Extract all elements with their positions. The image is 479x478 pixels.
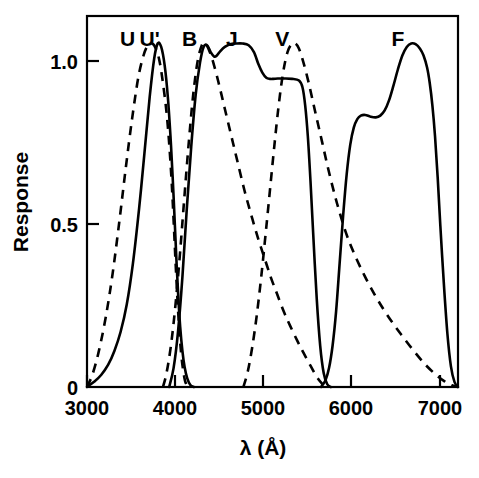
x-tick-label-3000: 3000 — [65, 397, 110, 419]
curve-label-u: U — [120, 27, 135, 50]
y-axis-tick-labels: 1.0 0.5 0 — [50, 51, 78, 399]
y-tick-label-0: 0 — [67, 377, 78, 399]
x-axis-tick-labels: 3000 4000 5000 6000 7000 — [65, 397, 463, 419]
x-tick-label-6000: 6000 — [329, 397, 374, 419]
filter-response-chart: 1.0 0.5 0 3000 4000 5000 6000 7000 λ (Å)… — [0, 0, 479, 478]
x-axis-title: λ (Å) — [240, 436, 287, 459]
curve-label-b: B — [182, 27, 197, 50]
response-curves — [87, 43, 458, 387]
y-tick-label-1: 1.0 — [50, 51, 78, 73]
curve-label-u-prime: U' — [140, 27, 160, 50]
chart-canvas: 1.0 0.5 0 3000 4000 5000 6000 7000 λ (Å)… — [0, 0, 479, 478]
y-tick-label-0_5: 0.5 — [50, 214, 78, 236]
curve-v — [243, 43, 458, 387]
curve-labels: UU'BJVF — [120, 27, 404, 50]
curve-label-j: J — [226, 27, 238, 50]
x-axis-ticks — [87, 375, 440, 387]
y-axis-ticks — [87, 61, 99, 224]
curve-label-v: V — [275, 27, 289, 50]
curve-label-f: F — [391, 27, 404, 50]
x-tick-label-7000: 7000 — [418, 397, 463, 419]
y-axis-title: Response — [9, 152, 32, 252]
x-tick-label-5000: 5000 — [241, 397, 286, 419]
plot-frame — [87, 16, 458, 387]
x-tick-label-4000: 4000 — [153, 397, 198, 419]
